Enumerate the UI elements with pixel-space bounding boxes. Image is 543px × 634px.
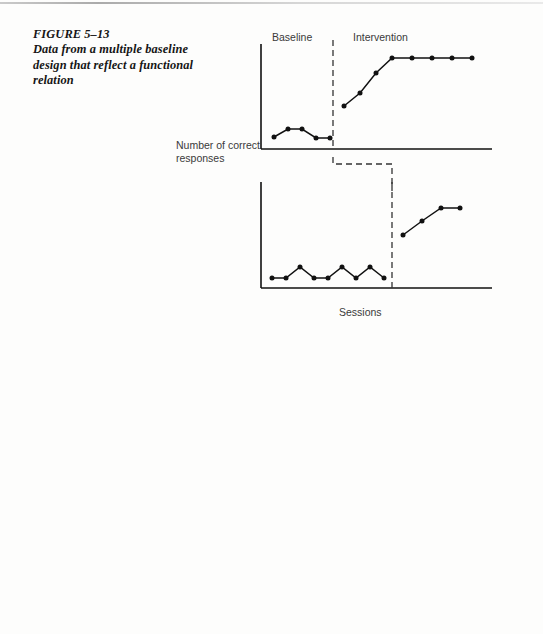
figure-5-13-tier2-intervention-series: [401, 206, 463, 238]
figure-5-14: FIGURE 5–14 Data from a multiple baselin…: [0, 305, 543, 634]
figure-5-13-plot: [240, 40, 500, 310]
figure-5-13-tier-connector: [333, 157, 392, 191]
figure-5-13: FIGURE 5–13 Data from a multiple baselin…: [0, 0, 543, 320]
figure-5-13-tier2-baseline-series: [270, 265, 387, 281]
figure-5-13-tier1-intervention-series: [342, 56, 475, 109]
figure-5-13-caption: FIGURE 5–13 Data from a multiple baselin…: [33, 27, 208, 89]
figure-5-13-tier1-axes: [261, 44, 492, 149]
figure-5-13-caption-title: FIGURE 5–13: [33, 27, 208, 42]
figure-5-13-tier1-baseline-series: [272, 127, 333, 141]
figure-5-13-caption-body: Data from a multiple baseline design tha…: [33, 42, 208, 88]
page-canvas: FIGURE 5–13 Data from a multiple baselin…: [0, 0, 543, 634]
